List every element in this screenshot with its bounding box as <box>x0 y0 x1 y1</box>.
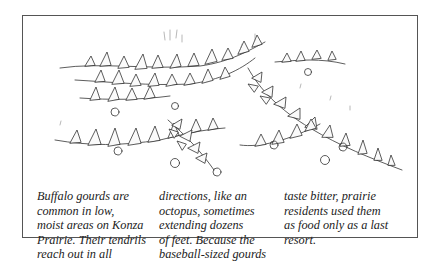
caption-line: residents used them <box>284 204 381 218</box>
caption-line: as food only as a last <box>284 218 388 232</box>
caption-column-3: taste bitter, prairie residents used the… <box>284 189 388 247</box>
caption-line: octopus, sometimes <box>159 204 255 218</box>
caption-line: of feet. Because the <box>159 233 255 247</box>
caption-line: resort. <box>284 233 316 247</box>
caption-line: reach out in all <box>37 247 112 261</box>
caption-line: taste bitter, prairie <box>284 189 376 203</box>
caption-line: extending dozens <box>159 218 243 232</box>
caption-line: baseball-sized gourds <box>159 247 266 261</box>
caption-column-2: directions, like an octopus, sometimes e… <box>159 189 266 262</box>
caption-column-1: Buffalo gourds are common in low, moist … <box>37 189 146 262</box>
buffalo-gourd-illustration <box>0 0 441 200</box>
caption-line: Prairie. Their tendrils <box>37 233 146 247</box>
caption-line: moist areas on Konza <box>37 218 143 232</box>
caption-line: common in low, <box>37 204 114 218</box>
caption-line: Buffalo gourds are <box>37 189 129 203</box>
caption-line: directions, like an <box>159 189 247 203</box>
